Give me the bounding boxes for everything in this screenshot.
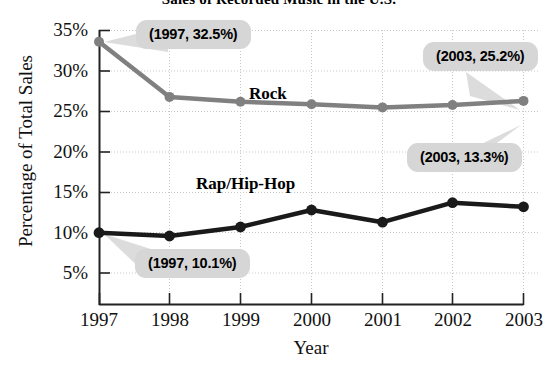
annotation-2003-rap-hip-hop: (2003, 13.3%) [407,143,522,172]
annotation-2003-rock: (2003, 25.2%) [423,42,538,71]
x-axis-ticks [100,293,524,305]
series-label-rock: Rock [249,84,287,104]
annotation-1997-rap-hip-hop: (1997, 10.1%) [135,249,250,278]
annotation-1997-rock: (1997, 32.5%) [136,20,251,49]
series-label-rap-hip-hop: Rap/Hip-Hop [196,174,295,194]
chart-container: Sales of Recorded Music in the U.S. Perc… [0,0,558,370]
